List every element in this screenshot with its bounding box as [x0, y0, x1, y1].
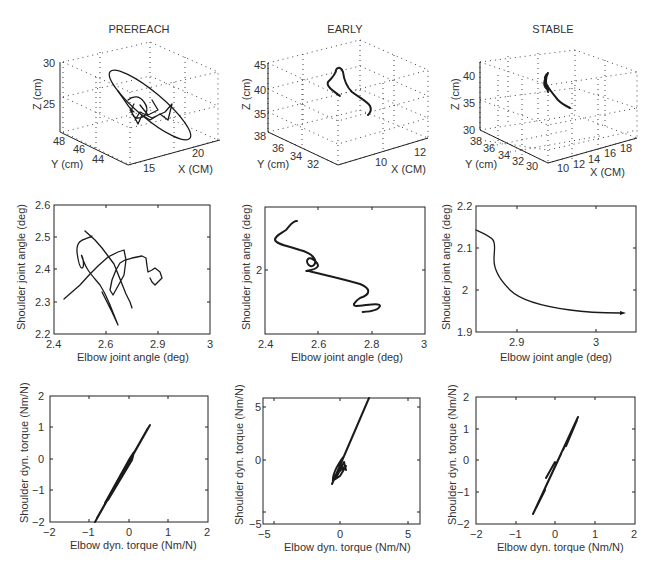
trajectory [533, 417, 578, 514]
y-tick: 1.9 [457, 326, 472, 338]
y-tick: 36 [483, 142, 495, 154]
y-tick: 32 [512, 155, 524, 167]
y-tick: 36 [272, 142, 284, 154]
x-tick: 1 [592, 528, 598, 540]
x-tick: 2.4 [46, 338, 61, 350]
x-axis-label: X (CM) [178, 163, 213, 175]
z-tick: 40 [463, 70, 475, 82]
y-tick: 5 [255, 401, 261, 413]
x-tick: 12 [414, 146, 426, 158]
panel-stable-angles: 2.2 2.1 2 1.9 2.9 3 Elbow joint angle (d… [440, 200, 636, 363]
y-tick: 30 [526, 160, 538, 172]
x-tick: 10 [375, 156, 387, 168]
y-tick: 2 [462, 284, 468, 296]
tick-marks [476, 397, 635, 524]
panel-stable-3d: STABLE 40 35 30 Z (cm) 38 36 34 32 30 Y … [449, 23, 637, 178]
x-axis-label: Elbow joint angle (deg) [77, 351, 189, 363]
x-tick: 16 [604, 147, 616, 159]
x-tick: 2.8 [364, 338, 379, 350]
x-tick: 2.9 [509, 336, 524, 348]
tick-marks [54, 205, 210, 334]
x-tick: 20 [192, 147, 204, 159]
z-tick: 38 [254, 130, 266, 142]
y-tick: 34 [498, 149, 510, 161]
y-tick: 38 [470, 135, 482, 147]
x-axis-label: Elbow joint angle (deg) [500, 351, 612, 363]
x-tick: 2.6 [98, 338, 113, 350]
y-tick: 2.3 [35, 296, 50, 308]
z-axis-label: Z (cm) [240, 78, 252, 110]
y-axis-label: Shoulder joint angle (deg) [240, 204, 252, 330]
y-axis-label: Y (cm) [51, 158, 83, 170]
x-tick: 2 [204, 526, 210, 538]
panel-prereach-3d: PREREACH 30 25 Z (cm) 48 46 44 Y (cm) 15… [31, 23, 220, 175]
trajectory-3d [102, 62, 198, 149]
y-tick: 2.5 [35, 231, 50, 243]
y-axis-label: Shoulder dyn. torque (Nm/N) [18, 382, 30, 523]
z-axis-label: Z (cm) [449, 78, 461, 110]
plot-frame [476, 397, 635, 524]
z-tick: 45 [254, 59, 266, 71]
x-tick: 3 [593, 336, 599, 348]
x-tick: 0 [337, 528, 343, 540]
panel-prereach-torque: 2 1 0 −1 −2 −2 −1 0 1 2 Elbow dyn. torqu… [18, 382, 210, 551]
y-tick: −1 [32, 484, 45, 496]
x-tick: 0 [126, 526, 132, 538]
x-tick: 0 [552, 528, 558, 540]
y-tick: 1 [463, 423, 469, 435]
x-tick: −2 [470, 528, 483, 540]
panel-early-3d: EARLY 45 40 35 38 Z (cm) 36 34 32 Y (cm)… [240, 23, 428, 175]
trajectory-3d [544, 73, 570, 108]
z-tick: 35 [254, 108, 266, 120]
y-tick: 2 [256, 264, 262, 276]
y-tick: 2.4 [35, 263, 50, 275]
x-tick: 2 [631, 528, 637, 540]
y-tick: 46 [73, 143, 85, 155]
x-tick: 3 [207, 338, 213, 350]
x-tick: 3 [421, 338, 427, 350]
grid-3d [268, 40, 428, 165]
y-axis-label: Shoulder joint angle (deg) [15, 204, 27, 330]
panel-title: PREREACH [108, 23, 169, 35]
y-tick: −2 [457, 518, 470, 530]
trajectory [332, 398, 369, 484]
z-tick: 30 [43, 57, 55, 69]
x-tick: 12 [573, 158, 585, 170]
x-tick: 2.4 [258, 338, 273, 350]
panel-prereach-angles: 2.6 2.5 2.4 2.3 2.2 2.4 2.6 2.9 3 Elbow … [15, 199, 213, 363]
y-axis-label: Shoulder joint angle (deg) [440, 204, 452, 330]
y-tick: 2.6 [35, 199, 50, 211]
x-tick: 15 [143, 162, 155, 174]
x-tick: 2.6 [311, 338, 326, 350]
y-tick: −1 [457, 486, 470, 498]
x-tick: 2.9 [150, 338, 165, 350]
y-tick: 2 [38, 390, 44, 402]
z-tick: 35 [463, 97, 475, 109]
x-tick: −5 [258, 528, 271, 540]
x-tick: 14 [588, 153, 600, 165]
x-tick: −1 [82, 526, 95, 538]
y-tick: 0 [38, 453, 44, 465]
z-tick: 40 [254, 84, 266, 96]
trajectory [275, 221, 380, 312]
x-axis-label: X (CM) [391, 163, 426, 175]
trajectory [95, 425, 150, 522]
trajectory-3d [328, 68, 371, 115]
y-tick: 44 [92, 153, 104, 165]
y-tick: 32 [307, 158, 319, 170]
y-tick: 48 [53, 135, 65, 147]
x-tick: 5 [405, 528, 411, 540]
trajectory [476, 230, 620, 313]
x-tick: 10 [557, 162, 569, 174]
y-tick: 2 [463, 391, 469, 403]
x-axis-label: Elbow dyn. torque (Nm/N) [497, 541, 624, 553]
x-axis-label: Elbow dyn. torque (Nm/N) [70, 539, 197, 551]
y-axis-label: Y (cm) [257, 158, 289, 170]
panel-early-torque: 5 0 −5 −5 0 5 Elbow dyn. torque (Nm/N) S… [233, 384, 420, 553]
y-tick: 34 [290, 150, 302, 162]
y-axis-label: Shoulder dyn. torque (Nm/N) [233, 384, 245, 525]
figure-canvas: PREREACH 30 25 Z (cm) 48 46 44 Y (cm) 15… [0, 0, 658, 567]
y-axis-label: Shoulder dyn. torque (Nm/N) [446, 384, 458, 525]
x-tick: −1 [509, 528, 522, 540]
x-tick: 18 [620, 142, 632, 154]
